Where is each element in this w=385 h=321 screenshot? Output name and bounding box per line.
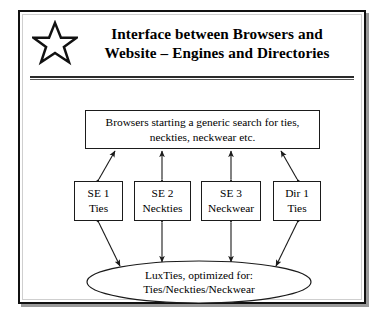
browsers-node: Browsers starting a generic search for t… [85, 110, 320, 149]
website-node-line-2: Ties/Neckties/Neckwear [143, 282, 255, 297]
se-3-node-line-1: SE 3 [220, 186, 242, 201]
se-3-node: SE 3 Neckwear [201, 181, 261, 221]
dir-1-node: Dir 1 Ties [273, 181, 321, 221]
se-2-node: SE 2 Neckties [134, 181, 191, 221]
figure-canvas: Interface between Browsers and Website –… [0, 0, 385, 321]
se-1-node-line-2: Ties [89, 201, 108, 216]
dir-1-node-line-2: Ties [287, 201, 306, 216]
diagram: Browsers starting a generic search for t… [20, 82, 364, 302]
se-2-node-line-2: Neckties [143, 201, 183, 216]
website-node: LuxTies, optimized for: Ties/Neckties/Ne… [86, 260, 312, 304]
header-rule-thin [30, 79, 354, 80]
star-icon [32, 20, 78, 66]
connector-dir1-browsers [281, 151, 297, 179]
se-2-node-line-1: SE 2 [152, 186, 174, 201]
connector-se1-browsers [99, 151, 115, 179]
page-title-line-1: Interface between Browsers and [84, 24, 350, 43]
browsers-node-line-2: neckties, neckwear etc. [150, 130, 256, 145]
se-1-node: SE 1 Ties [74, 181, 123, 221]
page-title-line-2: Website – Engines and Directories [84, 43, 350, 62]
website-node-line-1: LuxTies, optimized for: [145, 268, 253, 283]
website-node-text: LuxTies, optimized for: Ties/Neckties/Ne… [86, 260, 312, 304]
se-3-node-line-2: Neckwear [208, 201, 254, 216]
figure-header: Interface between Browsers and Website –… [20, 12, 364, 74]
dir-1-node-line-1: Dir 1 [285, 186, 309, 201]
browsers-node-line-1: Browsers starting a generic search for t… [106, 115, 300, 130]
se-1-node-line-1: SE 1 [88, 186, 110, 201]
page-title: Interface between Browsers and Website –… [84, 24, 354, 62]
header-rule-thick [30, 76, 354, 78]
figure-frame: Interface between Browsers and Website –… [18, 10, 366, 304]
